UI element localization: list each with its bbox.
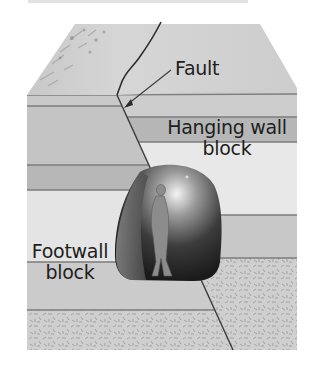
hanging-wall-label-line2: block xyxy=(157,138,297,159)
hanging-wall-block-label: Hanging wall block xyxy=(157,117,297,159)
hanging-wall-label-line1: Hanging wall xyxy=(157,117,297,138)
top-surface xyxy=(27,24,297,95)
footwall-block-label: Footwall block xyxy=(28,241,112,283)
fault-block-diagram xyxy=(0,0,316,367)
footwall-label-line2: block xyxy=(28,262,112,283)
footwall-label-line1: Footwall xyxy=(28,241,112,262)
fault-label: Fault xyxy=(175,58,219,79)
clipped-caption xyxy=(28,0,248,3)
